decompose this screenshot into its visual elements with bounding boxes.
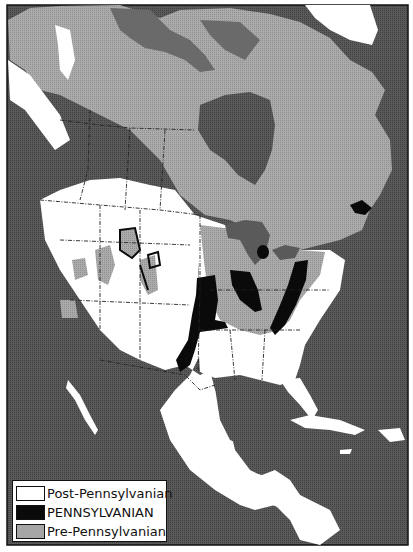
legend-label: PENNSYLVANIAN [47,505,154,520]
legend-item-post-pennsylvanian: Post-Pennsylvanian [16,484,163,502]
north-america-geologic-map [0,0,413,552]
legend-label: Pre-Pennsylvanian [47,524,166,539]
legend-item-pre-pennsylvanian: Pre-Pennsylvanian [16,522,163,540]
legend-label: Post-Pennsylvanian [47,486,173,501]
michigan-basin [257,245,269,259]
legend-item-pennsylvanian: PENNSYLVANIAN [16,503,163,521]
post-pennsylvanian-swatch [16,486,45,501]
pennsylvanian-swatch [16,505,45,520]
pre-pennsylvanian-swatch [16,524,45,539]
map-legend: Post-Pennsylvanian PENNSYLVANIAN Pre-Pen… [12,480,167,542]
